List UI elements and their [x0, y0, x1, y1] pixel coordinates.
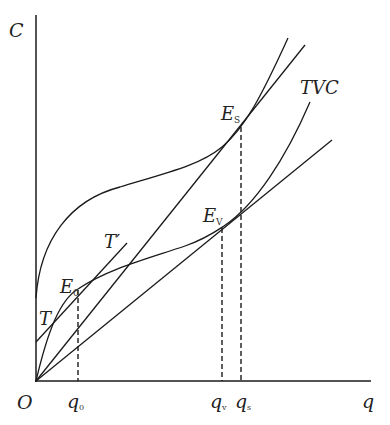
point-e0-label: E 0: [59, 276, 79, 298]
tangent-label-t-prime: T′: [104, 231, 120, 252]
tick-q0-label: q 0: [67, 390, 84, 412]
ray-to-ev: [36, 140, 332, 381]
tangent-label-t: T: [39, 308, 53, 329]
svg-text:V: V: [215, 217, 223, 227]
point-es-label: E S: [220, 103, 240, 125]
svg-text:0: 0: [73, 288, 79, 298]
x-axis-label: q: [362, 390, 374, 412]
cost-curves-diagram: C q O TVC T T′ E 0 E S E V q 0 q v q s: [0, 0, 390, 425]
svg-text:q: q: [210, 390, 222, 412]
svg-text:S: S: [234, 115, 240, 125]
svg-text:s: s: [247, 403, 251, 412]
point-ev-label: E V: [202, 205, 223, 227]
svg-text:E: E: [220, 103, 234, 124]
tvc-label: TVC: [300, 77, 339, 98]
y-axis-label: C: [9, 19, 24, 41]
tick-qs-label: q s: [235, 390, 251, 412]
svg-text:0: 0: [79, 403, 84, 412]
ray-to-es: [36, 45, 305, 381]
svg-text:E: E: [202, 205, 216, 226]
svg-text:v: v: [221, 403, 227, 412]
origin-label: O: [17, 391, 33, 413]
svg-text:q: q: [235, 390, 247, 412]
tvc-curve: [36, 102, 310, 381]
svg-text:q: q: [67, 390, 79, 412]
tick-qv-label: q v: [210, 390, 227, 412]
svg-text:E: E: [59, 276, 73, 297]
total-cost-curve: [36, 38, 288, 298]
